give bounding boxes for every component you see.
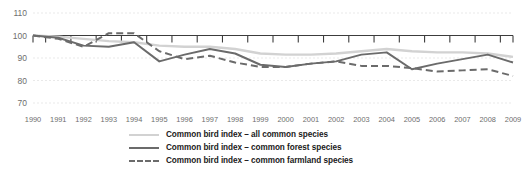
x-tick-label: 1999 — [252, 115, 268, 124]
line-solid-light-icon — [129, 130, 159, 140]
y-tick-label: 90 — [18, 53, 28, 63]
x-axis-tick-labels: 1990199119921993199419951996199719981999… — [25, 115, 521, 124]
y-tick-label: 110 — [13, 8, 27, 18]
x-tick-label: 2002 — [328, 115, 344, 124]
line-dashed-dark-icon — [129, 156, 159, 166]
x-tick-label: 2007 — [454, 115, 470, 124]
x-tick-label: 2008 — [480, 115, 496, 124]
x-tick-label: 2000 — [277, 115, 293, 124]
legend-item-common-farmland-species: Common bird index – common farmland spec… — [129, 154, 401, 167]
x-tick-label: 2006 — [429, 115, 445, 124]
gridlines — [33, 13, 513, 103]
x-tick-label: 1992 — [75, 115, 91, 124]
legend-item-label: Common bird index – all common species — [166, 130, 328, 139]
legend-item-common-forest-species: Common bird index – common forest specie… — [129, 141, 401, 154]
y-tick-label: 70 — [18, 98, 28, 108]
x-tick-label: 1997 — [202, 115, 218, 124]
x-tick-label: 2009 — [505, 115, 521, 124]
x-tick-label: 1996 — [176, 115, 192, 124]
legend-item-label: Common bird index – common farmland spec… — [166, 156, 353, 165]
x-tick-label: 2001 — [303, 115, 319, 124]
chart-legend: Common bird index – all common species C… — [0, 128, 530, 176]
x-tick-label: 1993 — [101, 115, 117, 124]
plot-area: 708090100110 199019911992199319941995199… — [0, 0, 530, 130]
line-chart-svg: 708090100110 199019911992199319941995199… — [0, 0, 530, 130]
x-tick-label: 1994 — [126, 115, 142, 124]
x-tick-label: 2004 — [378, 115, 394, 124]
legend-item-all-common-species: Common bird index – all common species — [129, 128, 401, 141]
x-tick-label: 1990 — [25, 115, 41, 124]
y-tick-label: 100 — [13, 31, 27, 41]
y-axis-tick-labels: 708090100110 — [13, 8, 27, 108]
x-tick-label: 2003 — [353, 115, 369, 124]
line-solid-dark-icon — [129, 143, 159, 153]
x-tick-label: 1991 — [50, 115, 66, 124]
x-tick-label: 1998 — [227, 115, 243, 124]
x-tick-label: 1995 — [151, 115, 167, 124]
legend-item-label: Common bird index – common forest specie… — [166, 143, 341, 152]
chart-figure: 708090100110 199019911992199319941995199… — [0, 0, 530, 176]
y-tick-label: 80 — [18, 76, 28, 86]
x-tick-label: 2005 — [404, 115, 420, 124]
